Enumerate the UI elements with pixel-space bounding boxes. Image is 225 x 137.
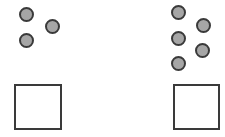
circle-right-4 xyxy=(195,43,210,58)
square-left xyxy=(14,84,62,130)
circle-right-1 xyxy=(171,5,186,20)
square-right xyxy=(173,84,220,130)
circle-left-2 xyxy=(45,19,60,34)
circle-right-5 xyxy=(171,56,186,71)
circle-right-3 xyxy=(171,31,186,46)
circle-left-3 xyxy=(19,33,34,48)
circle-left-1 xyxy=(19,7,34,22)
circle-right-2 xyxy=(196,18,211,33)
